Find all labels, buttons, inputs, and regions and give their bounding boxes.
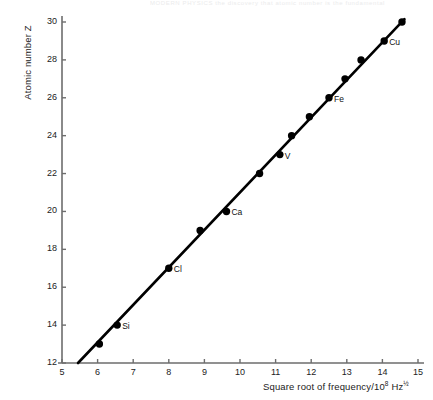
data-point (165, 265, 172, 272)
data-point (276, 151, 283, 158)
data-point-label: Ca (231, 207, 242, 217)
data-point (398, 18, 405, 25)
x-axis-tick-label: 8 (160, 367, 178, 377)
x-axis-tick-label: 12 (302, 367, 320, 377)
y-axis-tick-label: 16 (35, 281, 57, 291)
x-axis-tick-label: 15 (409, 367, 427, 377)
data-point (380, 37, 387, 44)
x-axis-tick-label: 9 (195, 367, 213, 377)
y-axis-title: Atomic number Z (22, 3, 33, 123)
data-point (306, 113, 313, 120)
y-axis-tick-label: 24 (35, 130, 57, 140)
y-axis-tick-label: 14 (35, 319, 57, 329)
x-axis-title: Square root of frequency/108 Hz½ (263, 381, 409, 392)
x-axis-tick-label: 14 (373, 367, 391, 377)
y-axis-tick-label: 28 (35, 54, 57, 64)
x-axis-title-unit: Hz (389, 381, 404, 392)
best-fit-line (78, 19, 404, 363)
data-point-label: Cl (174, 264, 182, 274)
data-point (256, 170, 263, 177)
x-axis-title-main: Square root of frequency/10 (263, 381, 385, 392)
y-axis-tick-label: 12 (35, 357, 57, 367)
data-point-label: Si (122, 321, 130, 331)
x-axis-tick-label: 13 (338, 367, 356, 377)
data-point (96, 340, 103, 347)
y-axis-tick-label: 26 (35, 92, 57, 102)
data-point-label: Cu (389, 37, 400, 47)
x-axis-tick-label: 5 (53, 367, 71, 377)
x-axis-tick-label: 11 (267, 367, 285, 377)
data-point (288, 132, 295, 139)
x-axis-tick-label: 7 (124, 367, 142, 377)
y-axis-tick-label: 20 (35, 205, 57, 215)
data-point (113, 321, 120, 328)
data-point (325, 94, 332, 101)
data-point-label: V (285, 151, 291, 161)
moseley-plot-figure: MODERN PHYSICS the discovery that atomic… (0, 0, 433, 400)
y-axis-tick-label: 22 (35, 168, 57, 178)
y-axis-tick-label: 18 (35, 243, 57, 253)
data-point (341, 75, 348, 82)
x-axis-tick-label: 10 (231, 367, 249, 377)
data-point (357, 56, 364, 63)
data-point (196, 227, 203, 234)
x-axis-tick-label: 6 (89, 367, 107, 377)
data-point (223, 208, 230, 215)
fit-line-group (78, 19, 404, 363)
data-point-label: Fe (334, 94, 344, 104)
x-axis-title-unit-exponent: ½ (403, 380, 409, 387)
y-axis-tick-label: 30 (35, 16, 57, 26)
plot-canvas (0, 0, 433, 400)
